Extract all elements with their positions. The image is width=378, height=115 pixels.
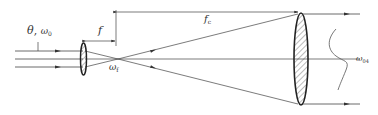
- diverging-rays: [85, 14, 360, 104]
- beam-expander-diagram: [0, 0, 378, 115]
- f-symbol: f: [98, 24, 102, 37]
- input-angle-waist-label: θ, ω0: [27, 25, 52, 37]
- omega-symbol: ω: [41, 26, 48, 36]
- omega-subscript: 0: [48, 30, 52, 37]
- omega-04-subscript: 04: [363, 58, 369, 64]
- input-lens: [81, 43, 87, 75]
- output-lens: [294, 13, 308, 105]
- gaussian-profile-curve: [329, 29, 347, 90]
- fc-subscript: c: [208, 18, 211, 25]
- output-waist-label: ω04: [356, 55, 369, 64]
- omega-f-subscript: f: [116, 66, 118, 73]
- input-rays: [15, 51, 83, 67]
- focal-length-f-label: f: [98, 25, 102, 36]
- focus-waist-label: ωf: [109, 63, 119, 73]
- label-separator: ,: [34, 24, 38, 37]
- focal-length-fc-label: fc: [204, 14, 211, 25]
- theta-symbol: θ: [27, 24, 34, 37]
